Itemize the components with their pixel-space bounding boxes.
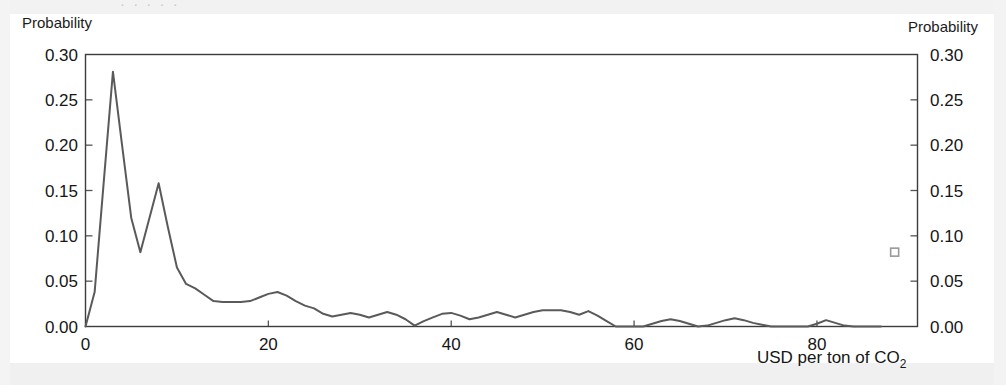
data-series-line: [86, 72, 881, 327]
y-tick-label-left: 0.20: [45, 136, 78, 155]
y-tick-label-left: 0.15: [45, 182, 78, 201]
x-tick-label: 20: [259, 335, 278, 354]
probability-distribution-chart: Probability Probability 0.000.050.100.15…: [0, 0, 1006, 385]
left-y-tick-labels: 0.000.050.100.150.200.250.30: [45, 46, 78, 337]
axis-tick-marks: [86, 100, 918, 327]
right-y-tick-labels: 0.000.050.100.150.200.250.30: [930, 46, 963, 337]
y-tick-label-left: 0.00: [45, 318, 78, 337]
figure-page: · · · · · Probability Probability 0.000.…: [0, 0, 1006, 385]
series-group: [86, 72, 881, 327]
plot-frame: [86, 55, 918, 327]
x-tick-label: 40: [442, 335, 461, 354]
x-axis-label-text: USD per ton of CO: [757, 348, 900, 367]
y-tick-label-right: 0.05: [930, 272, 963, 291]
y-tick-label-left: 0.30: [45, 46, 78, 65]
scan-speck-icon: [891, 248, 899, 256]
left-axis-title: Probability: [22, 14, 93, 31]
x-axis-label: USD per ton of CO2: [757, 348, 907, 371]
y-tick-label-right: 0.25: [930, 91, 963, 110]
y-tick-label-right: 0.30: [930, 46, 963, 65]
y-tick-label-right: 0.15: [930, 182, 963, 201]
right-axis-title: Probability: [908, 18, 979, 35]
annotation-group: [891, 248, 899, 256]
y-tick-label-left: 0.10: [45, 227, 78, 246]
y-tick-label-left: 0.05: [45, 272, 78, 291]
x-axis-label-subscript: 2: [900, 357, 907, 371]
x-tick-label: 60: [625, 335, 644, 354]
x-tick-labels: 020406080: [81, 335, 827, 354]
y-tick-label-right: 0.20: [930, 136, 963, 155]
y-tick-label-left: 0.25: [45, 91, 78, 110]
y-tick-label-right: 0.10: [930, 227, 963, 246]
x-tick-label: 0: [81, 335, 90, 354]
y-tick-label-right: 0.00: [930, 318, 963, 337]
